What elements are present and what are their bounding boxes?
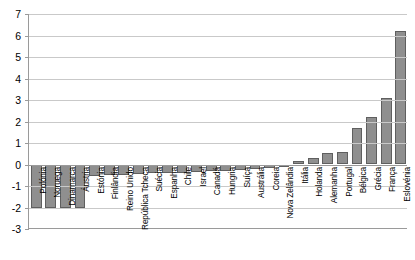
y-tick-label: 3 (15, 95, 21, 106)
bar (148, 165, 159, 174)
bar (89, 165, 100, 177)
y-tick-mark (25, 186, 29, 187)
y-tick-label: 5 (15, 52, 21, 63)
bar (352, 128, 363, 165)
plot-area (28, 14, 407, 229)
bar-chart: 76543210-1-2-3 PolóniaNoruegaDinamarcaÁu… (0, 0, 415, 260)
y-tick-mark (25, 36, 29, 37)
y-tick-mark (25, 122, 29, 123)
bar (381, 98, 392, 165)
y-tick-mark (25, 208, 29, 209)
gridline (29, 143, 407, 144)
y-tick-mark (25, 143, 29, 144)
y-tick-mark (25, 79, 29, 80)
bar (118, 165, 129, 176)
y-axis: 76543210-1-2-3 (0, 0, 28, 260)
gridline (29, 208, 407, 209)
bar (366, 117, 377, 164)
gridline (29, 186, 407, 187)
bar (133, 165, 144, 175)
bar (104, 165, 115, 176)
y-tick-label: -3 (12, 224, 21, 235)
y-tick-mark (25, 57, 29, 58)
gridline (29, 122, 407, 123)
y-tick-label: 4 (15, 73, 21, 84)
y-tick-label: 2 (15, 116, 21, 127)
bar (162, 165, 173, 174)
bar (191, 165, 202, 173)
y-tick-mark (25, 165, 29, 166)
bar (322, 153, 333, 165)
y-tick-label: 7 (15, 9, 21, 20)
y-tick-mark (25, 100, 29, 101)
y-tick-label: -1 (12, 181, 21, 192)
y-tick-mark (25, 229, 29, 230)
bar (177, 165, 188, 174)
y-tick-label: 0 (15, 159, 21, 170)
gridline (29, 57, 407, 58)
gridline (29, 100, 407, 101)
y-tick-label: 1 (15, 138, 21, 149)
gridline (29, 36, 407, 37)
gridline (29, 14, 407, 15)
bar (337, 152, 348, 165)
bar (395, 31, 406, 164)
y-tick-label: -2 (12, 202, 21, 213)
zero-gridline (29, 165, 407, 166)
gridline (29, 79, 407, 80)
y-tick-label: 6 (15, 30, 21, 41)
y-tick-mark (25, 14, 29, 15)
